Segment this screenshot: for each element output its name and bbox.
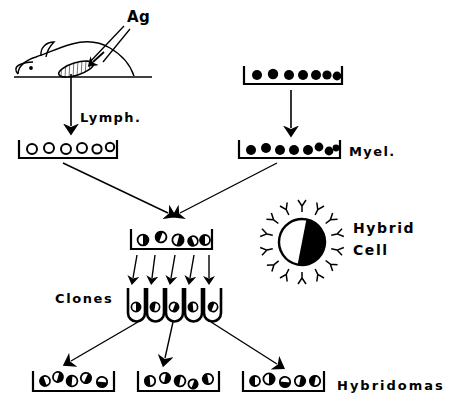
fusion-dish [131,229,212,249]
myeloma-to-fusion-arrow [180,163,277,213]
clone-tube [147,288,164,322]
hybrid-cell-label-line1: Hybrid [353,220,415,236]
mouse-eye [29,66,33,70]
fusion-to-clone-arrows [133,255,209,278]
myeloma-dish-top [244,66,342,84]
clone-to-hybridoma-arrow-right [211,322,277,364]
hybridomas-label: Hybridomas [337,378,445,393]
fusion-cells [138,230,210,247]
hybridoma-cells-center [144,372,214,390]
lymphocyte-cells [27,143,114,154]
hybridoma-dish-left [33,371,114,391]
lymphocyte-dish [19,140,117,158]
clones-label: Clones [55,291,113,306]
lymph-to-fusion-arrow [63,163,168,213]
clone-to-hybridoma-arrows [71,322,277,364]
myeloma-dish-bottom [239,140,340,158]
clone-tube [128,288,145,322]
hybridoma-dish-right [243,371,324,391]
fusion-to-clone-arrow-4 [190,255,194,278]
hybrid-cell-label-line2: Cell [353,242,389,258]
clone-tube [185,288,202,322]
hybridoma-dish-center [138,371,219,391]
myeloma-label: Myel. [349,144,396,159]
immunized-mouse [14,42,152,80]
lymph-label: Lymph. [80,110,141,125]
hybrid-cell-illustration [260,200,344,284]
fusion-convergence-arrows [63,163,277,213]
hybridoma-cells-left [39,371,108,388]
hybridoma-diagram: Ag Lymph. [0,0,459,415]
fusion-to-clone-arrow-3 [171,255,175,278]
myeloma-cells-top [252,69,341,81]
clone-to-hybridoma-arrow-center [165,322,173,358]
fusion-to-clone-arrow-2 [152,255,155,278]
myeloma-cells-bottom [246,143,339,156]
hybridoma-cells-right [250,373,321,387]
fusion-to-clone-arrow-1 [133,255,137,278]
hybrid-cell-body [275,215,329,269]
antigen-label: Ag [127,8,150,26]
clone-to-hybridoma-arrow-left [71,322,138,361]
clone-tube [204,288,221,322]
clone-tube [166,288,183,322]
clone-culture-tubes [128,288,221,322]
